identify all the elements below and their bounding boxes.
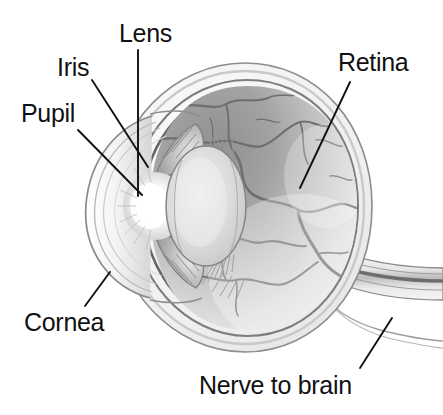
label-lens: Lens bbox=[119, 21, 172, 46]
label-cornea: Cornea bbox=[24, 310, 104, 335]
leader-line-cornea bbox=[85, 272, 110, 306]
label-retina: Retina bbox=[338, 50, 408, 75]
label-nerve-to-brain: Nerve to brain bbox=[199, 373, 352, 398]
label-pupil: Pupil bbox=[21, 101, 75, 126]
lens bbox=[166, 146, 246, 266]
label-iris: Iris bbox=[57, 55, 89, 80]
eye-anatomy-diagram: Lens Iris Pupil Retina Cornea Nerve to b… bbox=[0, 0, 443, 415]
